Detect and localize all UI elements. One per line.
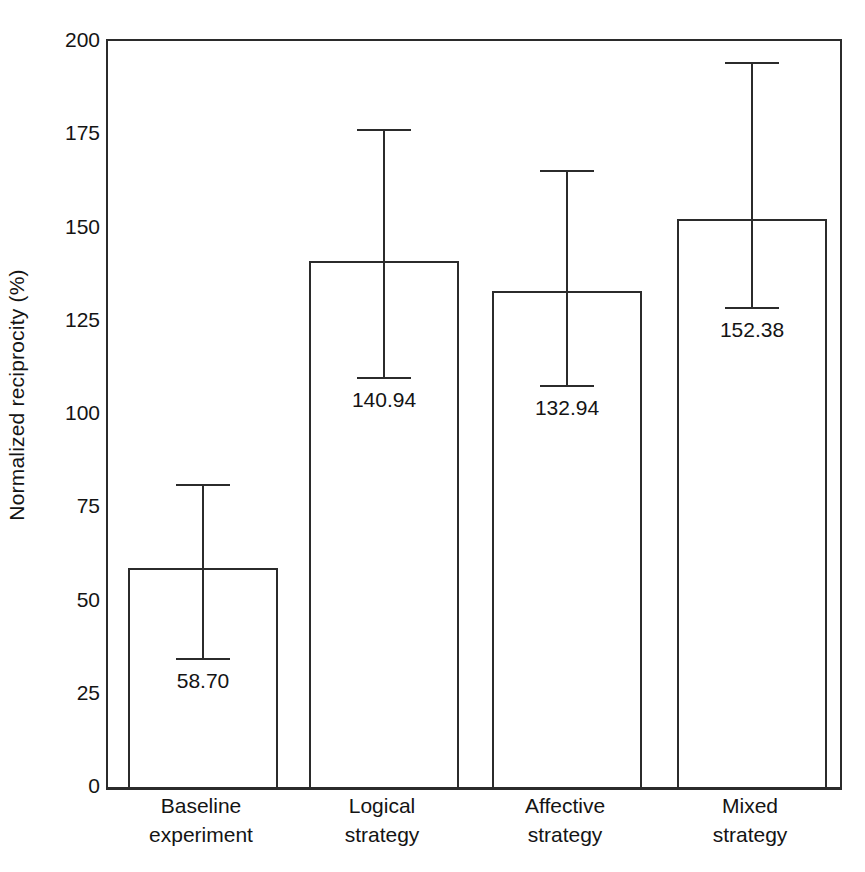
x-axis-tick-labels: BaselineexperimentLogicalstrategyAffecti… <box>106 792 842 870</box>
bar-value-label: 140.94 <box>352 389 416 410</box>
x-tick-label: Mixedstrategy <box>713 792 788 850</box>
error-bar-cap-lower <box>725 307 779 309</box>
x-tick-label-line1: Mixed <box>722 794 778 817</box>
error-bar-stem <box>566 170 568 387</box>
bar-value-label: 152.38 <box>720 319 784 340</box>
y-tick-label: 50 <box>42 588 100 609</box>
x-tick-label-line1: Logical <box>349 794 416 817</box>
y-axis-title: Normalized reciprocity (%) <box>0 0 34 790</box>
error-bar-cap-upper <box>725 62 779 64</box>
y-tick-label: 100 <box>42 402 100 423</box>
error-bar-cap-upper <box>357 129 411 131</box>
plot-area: 58.70140.94132.94152.38 <box>106 39 842 790</box>
y-tick-label: 0 <box>42 775 100 796</box>
error-bar-cap-lower <box>176 658 230 660</box>
x-tick-label: Logicalstrategy <box>345 792 420 850</box>
y-tick-label: 150 <box>42 215 100 236</box>
y-tick-label: 200 <box>42 29 100 50</box>
x-tick-label: Baselineexperiment <box>149 792 253 850</box>
error-bar-stem <box>751 62 753 309</box>
y-tick-label: 125 <box>42 308 100 329</box>
y-tick-label: 175 <box>42 122 100 143</box>
bar-value-label: 58.70 <box>177 670 230 691</box>
y-tick-label: 75 <box>42 495 100 516</box>
x-tick-label-line2: strategy <box>345 821 420 850</box>
x-tick-label: Affectivestrategy <box>525 792 605 850</box>
y-axis-tick-labels: 0255075100125150175200 <box>38 0 100 872</box>
error-bar-cap-upper <box>176 484 230 486</box>
bar-chart-figure: Normalized reciprocity (%) 0255075100125… <box>0 0 865 872</box>
error-bar-cap-upper <box>540 170 594 172</box>
x-tick-label-line2: strategy <box>713 821 788 850</box>
y-axis-title-text: Normalized reciprocity (%) <box>5 269 29 520</box>
x-tick-label-line2: strategy <box>525 821 605 850</box>
error-bar-stem <box>202 484 204 660</box>
error-bar-stem <box>383 129 385 379</box>
x-tick-label-line1: Baseline <box>161 794 242 817</box>
y-tick-label: 25 <box>42 681 100 702</box>
x-tick-label-line1: Affective <box>525 794 605 817</box>
plot-inner: 58.70140.94132.94152.38 <box>108 41 840 787</box>
error-bar-cap-lower <box>540 385 594 387</box>
error-bar-cap-lower <box>357 377 411 379</box>
bar-value-label: 132.94 <box>535 397 599 418</box>
x-tick-label-line2: experiment <box>149 821 253 850</box>
